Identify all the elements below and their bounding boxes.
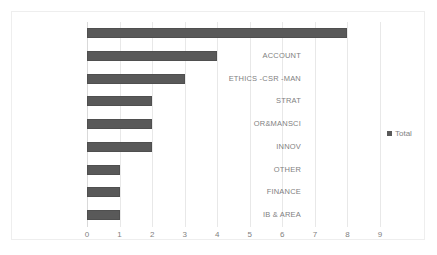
bar-row xyxy=(87,181,380,204)
bar-ent-sbm[interactable] xyxy=(87,28,347,38)
bar-row xyxy=(87,204,380,227)
bar-or-mansci[interactable] xyxy=(87,119,152,129)
bar-account[interactable] xyxy=(87,51,217,61)
bar-innov[interactable] xyxy=(87,142,152,152)
gridline-9 xyxy=(380,22,381,227)
bar-ib-area[interactable] xyxy=(87,210,120,220)
x-tick-label-4: 4 xyxy=(207,230,227,239)
x-tick-label-9: 9 xyxy=(370,230,390,239)
chart-container: ENT-SBMACCOUNTETHICS -CSR -MANSTRATOR&MA… xyxy=(11,11,425,240)
x-tick-label-3: 3 xyxy=(175,230,195,239)
bar-row xyxy=(87,22,380,45)
x-tick-label-7: 7 xyxy=(305,230,325,239)
bar-row xyxy=(87,113,380,136)
bar-row xyxy=(87,159,380,182)
chart-legend: Total xyxy=(387,129,412,138)
plot-area: ENT-SBMACCOUNTETHICS -CSR -MANSTRATOR&MA… xyxy=(87,22,380,227)
bar-row xyxy=(87,68,380,91)
bar-ethics-csr-man[interactable] xyxy=(87,74,185,84)
bar-other[interactable] xyxy=(87,165,120,175)
x-tick-label-2: 2 xyxy=(142,230,162,239)
bar-row xyxy=(87,90,380,113)
x-tick-label-1: 1 xyxy=(110,230,130,239)
bar-row xyxy=(87,45,380,68)
x-tick-label-5: 5 xyxy=(240,230,260,239)
x-tick-label-0: 0 xyxy=(77,230,97,239)
bar-strat[interactable] xyxy=(87,96,152,106)
x-tick-label-8: 8 xyxy=(337,230,357,239)
legend-label: Total xyxy=(395,129,412,138)
x-tick-label-6: 6 xyxy=(272,230,292,239)
bar-finance[interactable] xyxy=(87,187,120,197)
bar-row xyxy=(87,136,380,159)
x-axis-tick-labels: 0123456789 xyxy=(87,230,380,244)
legend-swatch-icon xyxy=(387,131,392,136)
